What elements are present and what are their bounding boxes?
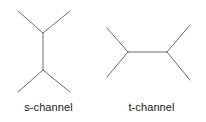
t-channel-incoming-leg-upper-left	[107, 28, 128, 52]
s-channel-incoming-leg-upper-right	[43, 11, 70, 33]
s-channel-outgoing-leg-lower-right	[43, 70, 70, 92]
t-channel-lines	[107, 25, 190, 80]
s-channel-lines	[18, 11, 70, 92]
s-channel-outgoing-leg-lower-left	[18, 70, 43, 92]
t-channel-outgoing-leg-upper-right	[167, 25, 190, 52]
t-channel-incoming-leg-lower-left	[107, 52, 128, 77]
feynman-diagram-figure: s-channel t-channel	[0, 0, 206, 122]
s-channel-caption: s-channel	[0, 101, 97, 113]
s-channel-incoming-leg-upper-left	[18, 11, 43, 33]
t-channel-caption: t-channel	[104, 101, 199, 113]
t-channel-outgoing-leg-lower-right	[167, 52, 190, 80]
